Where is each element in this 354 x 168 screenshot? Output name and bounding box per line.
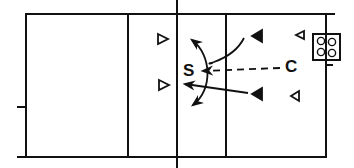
- open-triangle-player-icon: [291, 91, 299, 101]
- coach-label: C: [285, 58, 297, 75]
- setter-label: S: [183, 62, 194, 79]
- attack-arrow-icon: [185, 84, 248, 93]
- court-diagram: [0, 0, 354, 168]
- open-triangle-player-icon: [296, 31, 304, 39]
- open-triangle-player-icon: [158, 34, 168, 44]
- ball-cart-icon: [313, 34, 340, 60]
- filled-triangle-player-icon: [252, 88, 262, 100]
- filled-triangle-player-icon: [252, 30, 262, 42]
- open-triangle-player-icon: [159, 80, 169, 90]
- toss-arrow-icon: [203, 68, 280, 71]
